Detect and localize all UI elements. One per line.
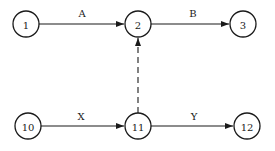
- edge-label-b: B: [189, 8, 196, 19]
- node-12: 12: [234, 113, 260, 139]
- node-label: 10: [22, 122, 35, 133]
- node-11: 11: [125, 113, 151, 139]
- edge-label-y: Y: [190, 111, 198, 122]
- edge-x: X: [41, 111, 124, 126]
- edge-label-a: A: [77, 8, 86, 19]
- node-10: 10: [15, 113, 41, 139]
- node-label: 12: [241, 122, 254, 133]
- node-label: 11: [132, 122, 145, 133]
- network-diagram: A B X Y 1 2 3 10 11 12: [0, 0, 275, 151]
- node-label: 1: [23, 20, 29, 31]
- edge-a: A: [39, 8, 124, 24]
- node-2: 2: [125, 11, 151, 37]
- node-label: 3: [240, 20, 246, 31]
- edge-label-x: X: [77, 111, 85, 122]
- edge-y: Y: [151, 111, 233, 126]
- node-3: 3: [230, 11, 256, 37]
- node-label: 2: [135, 20, 141, 31]
- edge-b: B: [151, 8, 229, 24]
- node-1: 1: [13, 11, 39, 37]
